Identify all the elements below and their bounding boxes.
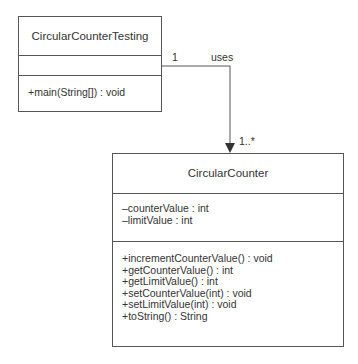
class-circular-counter-testing[interactable]: CircularCounterTesting +main(String[]) :… <box>18 16 162 112</box>
target-multiplicity: 1..* <box>239 135 255 147</box>
source-multiplicity: 1 <box>172 51 178 63</box>
association-label: uses <box>211 51 233 63</box>
attributes-compartment: –counterValue : int –limitValue : int <box>113 193 343 241</box>
class-name: CircularCounter <box>113 154 343 193</box>
attribute: –counterValue : int <box>122 203 343 215</box>
class-name: CircularCounterTesting <box>19 17 161 55</box>
arrowhead-icon <box>225 143 235 153</box>
method: +getLimitValue() : int <box>122 276 343 288</box>
methods-compartment: +incrementCounterValue() : void +getCoun… <box>113 241 343 346</box>
methods-compartment: +main(String[]) : void <box>19 75 161 111</box>
attributes-compartment <box>19 55 161 75</box>
attribute: –limitValue : int <box>122 215 343 227</box>
method: +toString() : String <box>122 311 343 323</box>
method: +main(String[]) : void <box>28 87 161 99</box>
class-circular-counter[interactable]: CircularCounter –counterValue : int –lim… <box>112 153 344 347</box>
method: +incrementCounterValue() : void <box>122 253 343 265</box>
method: +setLimitValue(int) : void <box>122 299 343 311</box>
